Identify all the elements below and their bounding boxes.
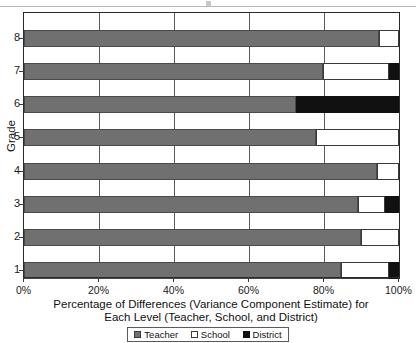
- legend-label: Teacher: [144, 330, 178, 340]
- bar-row: [24, 196, 399, 213]
- bar-segment-district: [385, 196, 399, 213]
- x-axis-line: [23, 277, 399, 278]
- district-swatch: [243, 331, 250, 338]
- bar-segment-teacher: [24, 96, 296, 113]
- bar-segment-district: [389, 63, 399, 80]
- bar-segment-school: [323, 63, 389, 80]
- legend: TeacherSchoolDistrict: [127, 327, 289, 342]
- legend-item: Teacher: [134, 330, 178, 340]
- x-axis-tick: [398, 277, 399, 282]
- school-swatch: [191, 331, 198, 338]
- x-axis-tick-label: 60%: [238, 284, 259, 296]
- bar-row: [24, 96, 399, 113]
- y-axis-tick-label: 1: [0, 264, 20, 275]
- x-axis-tick: [98, 277, 99, 282]
- stacked-bar-chart: 87654321 0%20%40%60%80%100% Grade Percen…: [0, 0, 416, 343]
- bar-segment-school: [377, 163, 399, 180]
- bar-row: [24, 129, 399, 146]
- x-axis-tick-label: 20%: [88, 284, 109, 296]
- x-axis-tick: [323, 277, 324, 282]
- bar-row: [24, 229, 399, 246]
- bar-row: [24, 163, 399, 180]
- x-axis-tick-label: 80%: [313, 284, 334, 296]
- scan-artifact-tick: [206, 1, 211, 6]
- y-axis-tick-label: 2: [0, 231, 20, 242]
- legend-label: District: [253, 330, 282, 340]
- teacher-swatch: [134, 331, 141, 338]
- x-axis-tick: [173, 277, 174, 282]
- x-axis-title-line-1: Percentage of Differences (Variance Comp…: [23, 298, 399, 311]
- legend-label: School: [201, 330, 230, 340]
- x-axis-tick-label: 40%: [163, 284, 184, 296]
- bar-segment-teacher: [24, 30, 379, 47]
- bar-segment-school: [379, 30, 399, 47]
- x-axis-title-line-2: Each Level (Teacher, School, and Distric…: [23, 311, 399, 324]
- scan-artifact-line: [0, 6, 416, 7]
- bars-layer: [24, 13, 399, 278]
- bar-segment-teacher: [24, 63, 323, 80]
- y-axis-title: Grade: [5, 106, 17, 166]
- y-axis-tick-label: 7: [0, 65, 20, 76]
- bar-segment-district: [296, 96, 399, 113]
- y-axis-tick-label: 4: [0, 165, 20, 176]
- bar-segment-school: [361, 229, 399, 246]
- legend-item: District: [243, 330, 282, 340]
- bar-segment-teacher: [24, 129, 316, 146]
- y-axis-tick-label: 8: [0, 32, 20, 43]
- x-axis-title: Percentage of Differences (Variance Comp…: [23, 298, 399, 324]
- legend-item: School: [191, 330, 230, 340]
- x-axis-tick: [248, 277, 249, 282]
- bar-segment-school: [316, 129, 399, 146]
- x-axis-tick-label: 100%: [385, 284, 412, 296]
- bar-segment-teacher: [24, 229, 361, 246]
- plot-area: [23, 12, 400, 279]
- x-axis-tick-label: 0%: [16, 284, 31, 296]
- y-axis-line: [23, 12, 24, 278]
- bar-segment-teacher: [24, 163, 377, 180]
- bar-segment-school: [358, 196, 385, 213]
- bar-row: [24, 30, 399, 47]
- x-axis-tick: [23, 277, 24, 282]
- bar-row: [24, 63, 399, 80]
- bar-segment-teacher: [24, 196, 358, 213]
- y-axis-tick-label: 3: [0, 198, 20, 209]
